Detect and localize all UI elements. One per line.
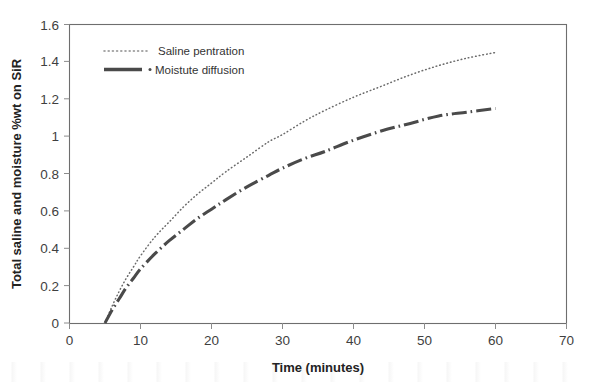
x-tick-label: 60 bbox=[488, 333, 503, 348]
series-line-moistute-diffusion bbox=[105, 108, 496, 323]
y-axis-ticks bbox=[64, 25, 70, 324]
legend-label-0: Saline pentration bbox=[158, 45, 244, 57]
line-chart: 0 0.2 0.4 0.6 0.8 1 1.2 1.4 1.6 0 10 20 bbox=[0, 0, 590, 382]
y-tick-label: 1.6 bbox=[40, 18, 59, 33]
y-tick-label: 1 bbox=[51, 129, 59, 144]
y-axis-tick-labels: 0 0.2 0.4 0.6 0.8 1 1.2 1.4 1.6 bbox=[40, 18, 59, 332]
legend-swatch-dashdot-dot-icon bbox=[149, 68, 152, 71]
x-axis-title: Time (minutes) bbox=[272, 360, 364, 375]
x-tick-label: 10 bbox=[133, 333, 148, 348]
y-axis-title: Total saline and moisture %wt on SiR bbox=[9, 58, 24, 289]
chart-figure: 0 0.2 0.4 0.6 0.8 1 1.2 1.4 1.6 0 10 20 bbox=[0, 0, 590, 382]
y-tick-label: 0 bbox=[51, 316, 59, 331]
y-tick-label: 0.8 bbox=[40, 167, 59, 182]
y-tick-label: 1.4 bbox=[40, 54, 59, 69]
legend-label-1: Moistute diffusion bbox=[155, 64, 244, 76]
x-tick-label: 0 bbox=[66, 333, 74, 348]
x-axis-tick-labels: 0 10 20 30 40 50 60 70 bbox=[66, 333, 574, 348]
x-tick-label: 50 bbox=[417, 333, 432, 348]
y-tick-label: 1.2 bbox=[40, 92, 59, 107]
x-tick-label: 30 bbox=[275, 333, 290, 348]
y-tick-label: 0.4 bbox=[40, 241, 59, 256]
y-tick-label: 0.6 bbox=[40, 204, 59, 219]
x-tick-label: 20 bbox=[204, 333, 219, 348]
chart-legend: Saline pentration Moistute diffusion bbox=[104, 45, 244, 76]
plot-frame bbox=[70, 25, 567, 324]
y-tick-label: 0.2 bbox=[40, 279, 59, 294]
series-line-saline-pentration bbox=[105, 52, 496, 323]
x-tick-label: 40 bbox=[346, 333, 361, 348]
x-tick-label: 70 bbox=[559, 333, 574, 348]
